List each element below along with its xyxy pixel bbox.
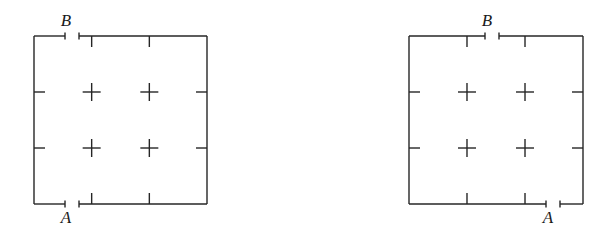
interior-cross: [516, 139, 534, 157]
panels-layer: BABA: [34, 11, 583, 227]
right-square-panel: BA: [409, 11, 583, 227]
interior-cross: [83, 139, 101, 157]
interior-cross: [140, 83, 158, 101]
figure-root: BABA: [0, 0, 608, 236]
label-b: B: [61, 11, 72, 30]
interior-cross: [458, 83, 476, 101]
label-b: B: [482, 11, 493, 30]
interior-cross: [140, 139, 158, 157]
interior-cross: [83, 83, 101, 101]
interior-cross: [516, 83, 534, 101]
interior-cross: [458, 139, 476, 157]
label-a: A: [60, 208, 72, 227]
diagram-canvas: BABA: [0, 0, 608, 236]
left-square-panel: BA: [34, 11, 207, 227]
label-a: A: [542, 208, 554, 227]
